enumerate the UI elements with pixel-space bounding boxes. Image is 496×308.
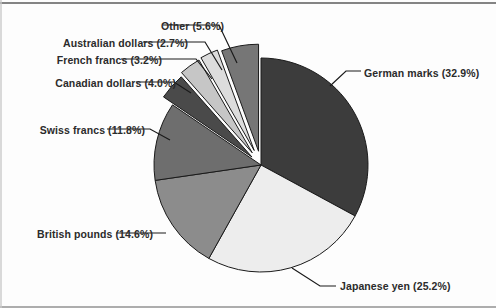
pie-label-other-text: Other (5.6%) — [161, 20, 224, 32]
pie-label-french-francs-text: French francs (3.2%) — [57, 54, 162, 66]
pie-label-canadian-dollars-text: Canadian dollars (4.0%) — [55, 77, 176, 89]
pie-label-british-pounds: British pounds (14.6%) — [10, 228, 153, 240]
pie-label-japanese-yen: Japanese yen (25.2%) — [340, 280, 451, 292]
pie-label-japanese-yen-text: Japanese yen (25.2%) — [340, 280, 451, 292]
leader-line-japanese-yen — [292, 268, 336, 286]
pie-label-french-francs: French francs (3.2%) — [10, 54, 162, 66]
pie-label-australian-dollars-text: Australian dollars (2.7%) — [63, 37, 188, 49]
pie-label-australian-dollars: Australian dollars (2.7%) — [10, 37, 188, 49]
pie-label-swiss-francs: Swiss francs (11.8%) — [10, 124, 145, 136]
pie-label-swiss-francs-text: Swiss francs (11.8%) — [40, 124, 145, 136]
pie-label-canadian-dollars: Canadian dollars (4.0%) — [10, 77, 176, 89]
leader-line-german-marks — [330, 71, 361, 86]
pie-label-german-marks: German marks (32.9%) — [364, 67, 479, 79]
pie-chart-figure: Other (5.6%) Australian dollars (2.7%) F… — [0, 0, 496, 308]
pie-label-british-pounds-text: British pounds (14.6%) — [37, 228, 153, 240]
pie-label-german-marks-text: German marks (32.9%) — [364, 67, 479, 79]
pie-label-other: Other (5.6%) — [10, 20, 224, 32]
pie-slice-group — [154, 44, 368, 272]
